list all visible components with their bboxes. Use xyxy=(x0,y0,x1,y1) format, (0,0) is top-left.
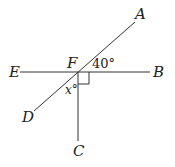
right-angle-marker xyxy=(78,72,89,84)
line-DA xyxy=(34,22,135,111)
angle-label-40: 40° xyxy=(92,56,115,71)
label-B: B xyxy=(152,63,164,81)
label-F: F xyxy=(66,54,78,72)
label-E: E xyxy=(8,63,20,81)
label-D: D xyxy=(21,108,34,126)
angle-label-x: x° xyxy=(65,83,78,97)
geometry-diagram: A B C D E F 40° x° xyxy=(0,0,175,167)
label-A: A xyxy=(133,5,146,23)
label-C: C xyxy=(73,142,85,160)
